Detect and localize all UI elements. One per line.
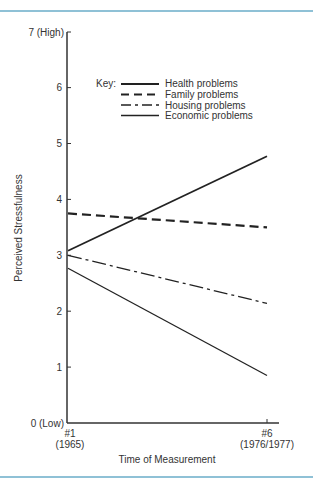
- y-tick-5: 5: [56, 138, 62, 149]
- x-tick-1-year: (1965): [56, 439, 85, 450]
- series-economic-line: [68, 268, 267, 375]
- x-tick-1-label: #1: [64, 428, 76, 439]
- y-tick-1: 1: [56, 362, 62, 373]
- x-tick-6-label: #6: [261, 428, 273, 439]
- x-axis-title: Time of Measurement: [119, 454, 216, 465]
- legend: Key: Health problems Family problems Hou…: [96, 78, 253, 121]
- line-chart: 7 (High) 6 5 4 3 2 1 0 (Low) #1 (1965) #…: [0, 0, 313, 488]
- x-tick-6-year: (1976/1977): [240, 439, 294, 450]
- legend-family-label: Family problems: [165, 89, 238, 100]
- y-tick-3: 3: [56, 250, 62, 261]
- y-axis-title: Perceived Stressfulness: [13, 174, 24, 281]
- legend-housing-label: Housing problems: [165, 100, 246, 111]
- y-tick-6: 6: [56, 82, 62, 93]
- y-tick-0: 0 (Low): [31, 418, 64, 429]
- series-housing-line: [68, 255, 267, 303]
- y-tick-4: 4: [56, 194, 62, 205]
- legend-economic-label: Economic problems: [165, 110, 253, 121]
- legend-health-label: Health problems: [165, 78, 238, 89]
- y-tick-7: 7 (High): [28, 27, 64, 38]
- series-family-line: [68, 213, 267, 227]
- series-health-line: [68, 156, 267, 250]
- legend-key-label: Key:: [96, 78, 116, 89]
- y-tick-2: 2: [56, 306, 62, 317]
